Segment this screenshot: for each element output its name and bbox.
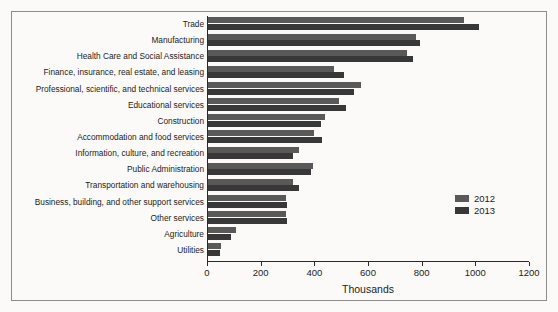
bar-2012 [208,243,221,249]
x-tick [422,262,423,266]
x-tick-label: 1000 [465,267,486,278]
x-tick [207,262,208,266]
legend-item-2013: 2013 [455,204,495,216]
chart-row: Accommodation and food services [207,129,529,145]
x-tick-label: 800 [414,267,430,278]
bar-2013 [208,218,287,224]
legend-swatch-2013-icon [455,207,469,214]
bar-2013 [208,250,220,256]
chart-row: Educational services [207,97,529,113]
legend-label-2012: 2012 [474,193,495,204]
legend-swatch-2012-icon [455,195,469,202]
legend-label-2013: 2013 [474,205,495,216]
bar-2012 [208,227,236,233]
bar-2012 [208,114,325,120]
category-label: Transportation and warehousing [85,181,204,189]
category-label: Other services [151,214,204,222]
bar-2012 [208,66,334,72]
legend-item-2012: 2012 [455,192,495,204]
bar-2012 [208,98,339,104]
chart-row: Professional, scientific, and technical … [207,81,529,97]
chart-row: Finance, insurance, real estate, and lea… [207,64,529,80]
bar-2013 [208,137,322,143]
chart-row: Manufacturing [207,32,529,48]
chart-legend: 2012 2013 [455,192,495,216]
bar-2013 [208,72,344,78]
category-label: Professional, scientific, and technical … [36,85,204,93]
bar-2012 [208,50,407,56]
category-label: Utilities [177,246,204,254]
category-label: Health Care and Social Assistance [77,52,204,60]
bar-2013 [208,56,413,62]
bar-2013 [208,105,346,111]
chart-row: Public Administration [207,161,529,177]
category-label: Agriculture [164,230,204,238]
x-axis-label: Thousands [207,283,529,295]
chart-row: Construction [207,113,529,129]
chart-row: Utilities [207,242,529,258]
x-tick [368,262,369,266]
bar-2013 [208,234,231,240]
x-tick-label: 400 [306,267,322,278]
category-label: Accommodation and food services [77,133,204,141]
bar-2013 [208,202,287,208]
category-label: Business, building, and other support se… [35,198,204,206]
category-label: Educational services [128,101,204,109]
chart-row: Agriculture [207,226,529,242]
bar-2012 [208,195,286,201]
x-tick [475,262,476,266]
chart-row: Trade [207,16,529,32]
bar-2013 [208,153,293,159]
bar-2012 [208,17,464,23]
x-tick-label: 0 [204,267,209,278]
x-tick [314,262,315,266]
bar-2012 [208,82,361,88]
category-label: Trade [183,20,204,28]
chart-row: Information, culture, and recreation [207,145,529,161]
category-label: Public Administration [127,165,204,173]
category-label: Finance, insurance, real estate, and lea… [43,68,204,76]
bar-2013 [208,40,420,46]
bar-2013 [208,121,321,127]
bar-2012 [208,211,286,217]
x-tick [261,262,262,266]
bar-2012 [208,163,313,169]
plot-area: TradeManufacturingHealth Care and Social… [207,16,529,258]
x-tick [529,262,530,266]
x-tick-label: 1200 [518,267,539,278]
bar-2013 [208,169,311,175]
category-label: Information, culture, and recreation [75,149,204,157]
bar-2012 [208,147,299,153]
category-label: Construction [157,117,204,125]
bar-2012 [208,34,416,40]
x-tick-label: 600 [360,267,376,278]
chart-figure: 020040060080010001200 Thousands TradeMan… [0,0,558,312]
x-tick-label: 200 [253,267,269,278]
bar-2013 [208,24,479,30]
chart-row: Health Care and Social Assistance [207,48,529,64]
bar-2012 [208,130,314,136]
bar-2013 [208,185,299,191]
category-label: Manufacturing [151,36,204,44]
bar-2012 [208,179,293,185]
bar-2013 [208,89,354,95]
